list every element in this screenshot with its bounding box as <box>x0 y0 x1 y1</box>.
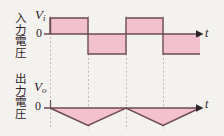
input-quantity-symbol-base: V <box>35 7 43 22</box>
output-quantity-symbol: Vo <box>34 79 46 95</box>
output-quantity-symbol-base: V <box>34 79 42 94</box>
input-zero-label: 0 <box>36 26 42 41</box>
input-quantity-symbol-subscript: i <box>43 13 46 23</box>
input-quantity-symbol: Vi <box>35 7 45 23</box>
input-voltage-caption: 入力電圧 <box>13 12 25 58</box>
figure-background <box>0 0 224 136</box>
waveform-figure <box>0 0 224 136</box>
output-quantity-symbol-subscript: o <box>42 85 47 95</box>
output-voltage-caption: 出力電圧 <box>13 73 25 119</box>
output-time-axis-label: t <box>205 97 208 112</box>
input-time-axis-label: t <box>205 26 208 41</box>
output-zero-label: 0 <box>35 99 41 114</box>
